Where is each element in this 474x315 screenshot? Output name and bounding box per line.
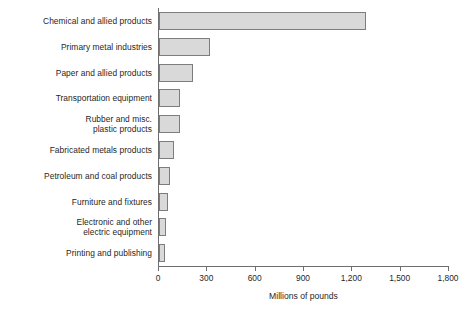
x-tick-mark [448, 267, 449, 271]
x-tick-mark [351, 267, 352, 271]
x-tick-label: 600 [248, 273, 262, 283]
x-tick-mark [400, 267, 401, 271]
bar-chart: Chemical and allied productsPrimary meta… [0, 0, 474, 315]
x-tick-mark [206, 267, 207, 271]
x-tick-label: 1,800 [438, 273, 459, 283]
x-tick-mark [255, 267, 256, 271]
x-tick-mark [303, 267, 304, 271]
x-tick-label: 300 [199, 273, 213, 283]
x-tick-label: 0 [156, 273, 161, 283]
x-tick-label: 1,200 [341, 273, 362, 283]
x-tick-label: 900 [296, 273, 310, 283]
x-tick-mark [158, 267, 159, 271]
x-axis-ticks: 03006009001,2001,5001,800 [0, 0, 474, 315]
x-tick-label: 1,500 [389, 273, 410, 283]
x-axis-title: Millions of pounds [158, 291, 449, 301]
